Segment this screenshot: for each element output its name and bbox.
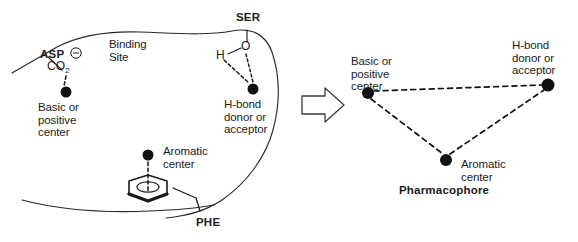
carboxylate-subscript: 2: [65, 66, 69, 75]
feature-label-hbond-donor-acceptor-left: H-bond donor or acceptor: [224, 98, 267, 136]
feature-label-basic-positive-center-left: Basic or positive center: [38, 101, 79, 139]
edge-basic-to-hbond: [374, 85, 542, 91]
pharmacophore-caption: Pharmacophore: [399, 184, 489, 197]
hbond-donor-acceptor-dot-right: [542, 79, 555, 92]
ser-o-hbond-dash: [246, 54, 253, 82]
edge-aromatic-to-hbond: [450, 90, 544, 154]
transformation-arrow-icon: [302, 88, 344, 122]
feature-label-aromatic-center-right: Aromatic center: [461, 158, 506, 183]
residue-label-phe: PHE: [196, 216, 220, 229]
ser-oh-bond: [228, 48, 241, 54]
pharmacophore-triangle-edges: [371, 85, 544, 154]
hydroxyl-oxygen-label: O: [241, 40, 250, 53]
pharmacophore-figure: ASP SER PHE Binding Site CO2 H O Basic o…: [0, 0, 578, 242]
carboxylate-group: CO2: [47, 56, 69, 78]
ser-h-hbond-dash: [224, 60, 249, 83]
edge-basic-to-aromatic: [371, 99, 443, 154]
residue-label-ser: SER: [236, 11, 260, 24]
hydroxyl-hydrogen-label: H: [216, 49, 225, 62]
binding-site-label: Binding Site: [109, 38, 147, 63]
aromatic-center-dot-left: [143, 150, 154, 161]
aromatic-center-dot-right: [440, 154, 452, 166]
basic-positive-center-dot-left: [61, 87, 72, 98]
carboxylate-label: CO: [47, 59, 65, 73]
hbond-donor-acceptor-dot-left: [248, 84, 259, 95]
figure-vector-layer: [0, 0, 578, 242]
feature-label-aromatic-center-left: Aromatic center: [163, 145, 208, 170]
feature-label-hbond-donor-acceptor-right: H-bond donor or acceptor: [512, 39, 555, 77]
feature-label-basic-positive-center-right: Basic or positive center: [351, 55, 392, 93]
